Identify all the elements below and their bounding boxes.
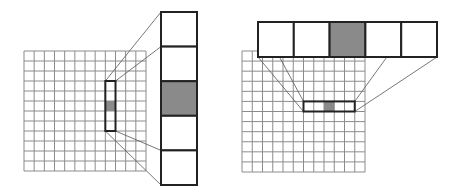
magnified-strip (161, 12, 197, 185)
connector-line (355, 57, 387, 101)
magnified-cell (258, 22, 294, 57)
magnified-cell (401, 22, 437, 57)
window-highlight-cell (105, 101, 115, 111)
sliding-window-diagram (0, 0, 456, 196)
connector-lines (105, 12, 161, 185)
magnified-cell (161, 12, 197, 47)
connector-line (258, 57, 304, 112)
connector-lines (258, 57, 437, 112)
magnified-strip (258, 22, 437, 57)
window-highlight-cell (324, 101, 334, 111)
magnified-cell (161, 116, 197, 151)
magnified-cell (294, 22, 330, 57)
magnified-cell (161, 47, 197, 82)
magnified-cell (365, 22, 401, 57)
vertical-window-panel (24, 12, 197, 185)
magnified-cell-highlighted (161, 81, 197, 116)
connector-line (116, 47, 162, 81)
magnified-cell (161, 150, 197, 185)
horizontal-window-panel (242, 22, 437, 172)
connector-line (105, 131, 161, 185)
magnified-cell-highlighted (330, 22, 366, 57)
